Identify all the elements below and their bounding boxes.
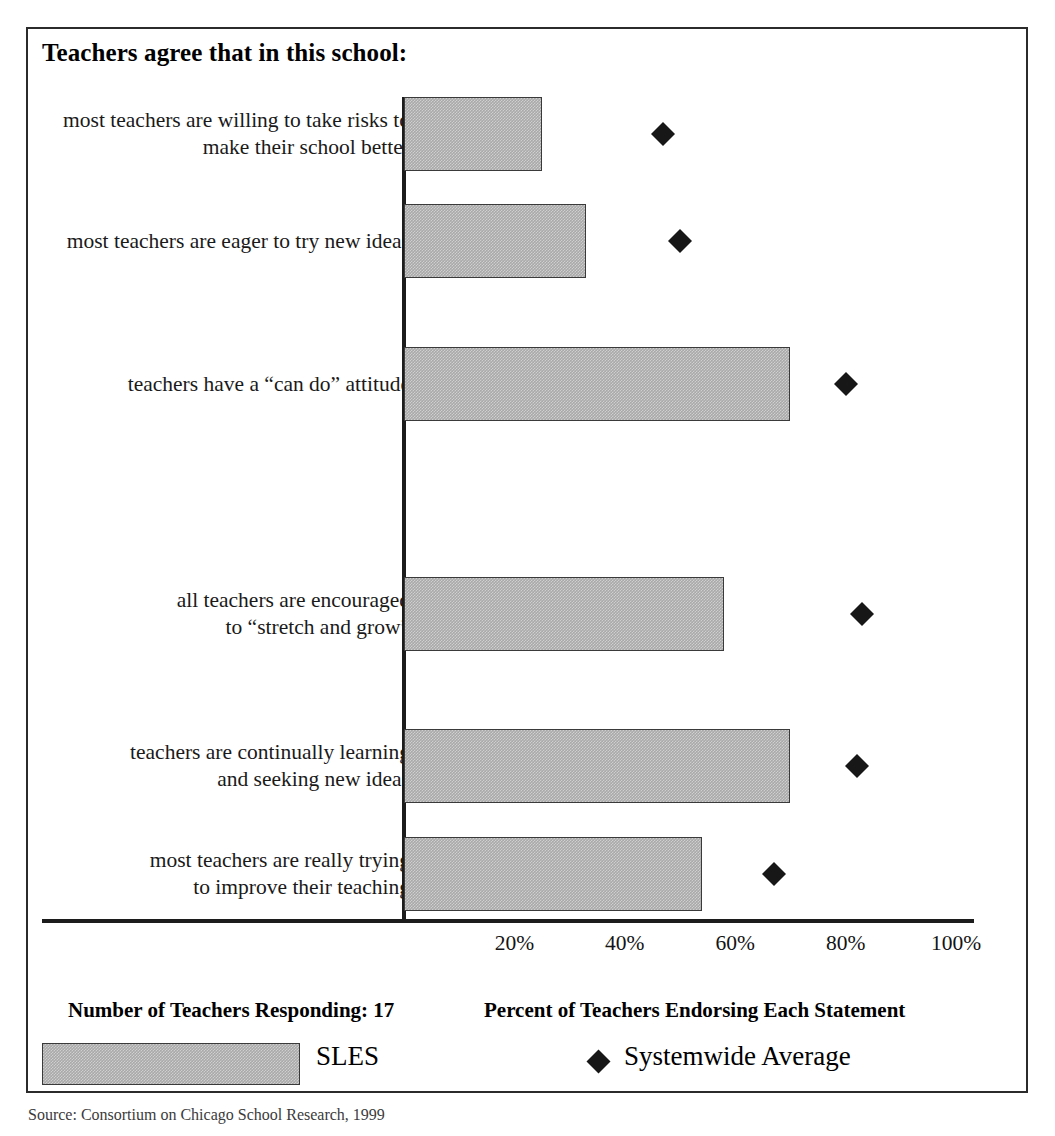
bar-series-sles (404, 347, 790, 421)
diamond-icon (845, 754, 869, 778)
legend-bar-swatch (42, 1043, 300, 1085)
diamond-icon (850, 602, 874, 626)
category-label-line: and seeking new ideas (50, 766, 410, 793)
bar-series-sles (404, 729, 790, 803)
category-label-line: most teachers are really trying (50, 847, 410, 874)
tick-label: 40% (605, 931, 644, 956)
tick-label: 80% (826, 931, 865, 956)
category-label-5: most teachers are really trying to impro… (50, 847, 410, 901)
category-label-line: to improve their teaching (50, 874, 410, 901)
category-label-0: most teachers are willing to take risks … (50, 107, 410, 161)
category-label-1: most teachers are eager to try new ideas (50, 228, 410, 255)
category-label-line: most teachers are eager to try new ideas (50, 228, 410, 255)
category-label-4: teachers are continually learning and se… (50, 739, 410, 793)
respondents-caption: Number of Teachers Responding: 17 (68, 998, 394, 1023)
tick-label: 60% (715, 931, 754, 956)
plot-area: most teachers are willing to take risks … (28, 29, 1030, 1095)
figure-frame: Teachers agree that in this school: most… (26, 27, 1028, 1093)
category-label-line: make their school better (50, 134, 410, 161)
diamond-icon (651, 122, 675, 146)
category-label-line: all teachers are encouraged (50, 587, 410, 614)
axis-caption: Percent of Teachers Endorsing Each State… (484, 998, 905, 1023)
legend-bar-label: SLES (316, 1041, 379, 1072)
source-note: Source: Consortium on Chicago School Res… (28, 1106, 385, 1124)
category-label-line: most teachers are willing to take risks … (50, 107, 410, 134)
category-label-2: teachers have a “can do” attitude (50, 371, 410, 398)
tick-label: 100% (931, 931, 981, 956)
bar-series-sles (404, 97, 542, 171)
diamond-icon (834, 372, 858, 396)
category-axis-line (42, 919, 974, 923)
diamond-icon (762, 862, 786, 886)
legend-marker-label: Systemwide Average (624, 1041, 851, 1072)
tick-label: 20% (495, 931, 534, 956)
category-label-line: teachers are continually learning (50, 739, 410, 766)
bar-series-sles (404, 837, 702, 911)
category-label-3: all teachers are encouraged to “stretch … (50, 587, 410, 641)
category-label-line: to “stretch and grow” (50, 614, 410, 641)
diamond-icon (668, 229, 692, 253)
category-label-line: teachers have a “can do” attitude (50, 371, 410, 398)
bar-series-sles (404, 204, 586, 278)
bar-series-sles (404, 577, 724, 651)
